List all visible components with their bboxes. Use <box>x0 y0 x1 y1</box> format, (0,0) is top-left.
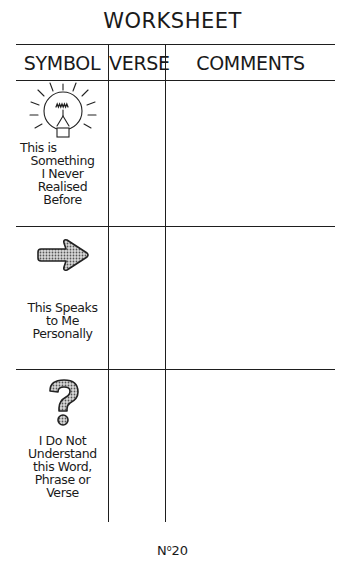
column-divider-verse-comments <box>165 44 166 522</box>
symbol-label: This is Something I Never Realised Befor… <box>16 141 109 206</box>
question-mark-icon <box>46 378 82 428</box>
symbol-label: I Do Not Understand this Word, Phrase or… <box>16 434 109 499</box>
arrow-right-icon <box>36 236 92 274</box>
symbol-label: This Speaks to Me Personally <box>16 301 109 340</box>
verse-cell[interactable] <box>110 228 164 368</box>
comments-cell[interactable] <box>167 228 335 368</box>
page-number: No20 <box>0 543 345 558</box>
row-divider <box>16 369 335 370</box>
column-header-symbol: SYMBOL <box>16 47 108 79</box>
worksheet-title: WORKSHEET <box>0 9 345 33</box>
column-header-verse: VERSE <box>109 47 165 79</box>
lightbulb-icon <box>23 80 103 142</box>
comments-cell[interactable] <box>167 82 335 225</box>
column-header-comments: COMMENTS <box>166 47 335 79</box>
table-top-border <box>16 44 335 45</box>
verse-cell[interactable] <box>110 371 164 521</box>
row-divider <box>16 226 335 227</box>
comments-cell[interactable] <box>167 371 335 521</box>
verse-cell[interactable] <box>110 82 164 225</box>
